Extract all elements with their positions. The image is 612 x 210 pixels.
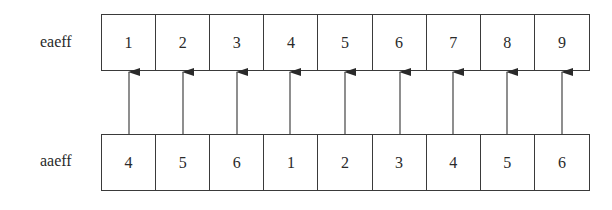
bottom-cell: 1 bbox=[264, 135, 318, 190]
bottom-cell: 4 bbox=[427, 135, 481, 190]
bottom-cell: 3 bbox=[373, 135, 427, 190]
bottom-cell: 5 bbox=[481, 135, 535, 190]
bottom-row-label: aaeff bbox=[40, 152, 72, 170]
bottom-cell: 5 bbox=[156, 135, 210, 190]
bottom-row: 4 5 6 1 2 3 4 5 6 bbox=[101, 134, 590, 191]
bottom-cell: 4 bbox=[102, 135, 156, 190]
bottom-cell: 6 bbox=[210, 135, 264, 190]
bottom-cell: 2 bbox=[318, 135, 372, 190]
bottom-cell: 6 bbox=[535, 135, 589, 190]
arrow-icon bbox=[129, 72, 562, 134]
